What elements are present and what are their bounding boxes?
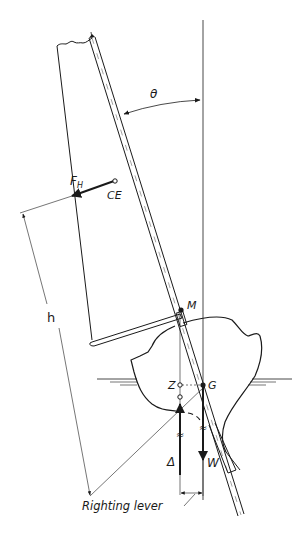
break-mark-delta: ≈ bbox=[176, 429, 184, 440]
g-point bbox=[200, 382, 205, 387]
w-label: W bbox=[207, 456, 220, 470]
force-label: FH bbox=[70, 174, 83, 190]
metacentre-point bbox=[178, 307, 183, 312]
righting-lever-label: Righting lever bbox=[82, 499, 164, 513]
h-label: h bbox=[47, 310, 55, 325]
waterline-right bbox=[248, 379, 292, 385]
ce-point bbox=[113, 179, 117, 183]
righting-lever-dimension bbox=[181, 460, 203, 506]
hull-outline bbox=[131, 317, 262, 452]
theta-label: θ bbox=[150, 87, 158, 101]
sail-leech bbox=[57, 38, 92, 340]
waterline-left bbox=[97, 379, 137, 385]
mast bbox=[89, 32, 244, 516]
m-label: M bbox=[187, 299, 197, 312]
ce-label: CE bbox=[107, 189, 122, 202]
g-label: G bbox=[208, 379, 217, 392]
delta-label: Δ bbox=[166, 455, 175, 469]
heel-angle-arc bbox=[124, 100, 200, 114]
sailboard-heel-diagram: θ CE FH h M Z G ≈ Δ bbox=[0, 0, 307, 537]
z-label: Z bbox=[167, 379, 176, 392]
hull-dashed-section bbox=[188, 413, 200, 420]
h-dimension bbox=[20, 196, 205, 496]
break-mark-w: ≈ bbox=[199, 422, 207, 433]
z-point bbox=[178, 383, 182, 387]
buoyancy-point bbox=[178, 395, 182, 399]
boom bbox=[90, 311, 187, 346]
